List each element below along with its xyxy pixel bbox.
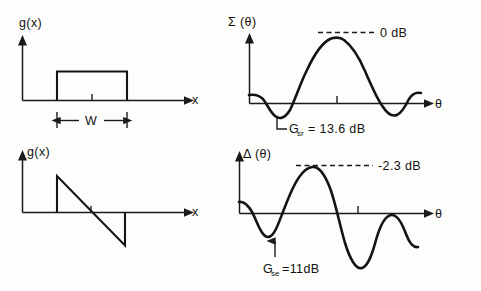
sum-pattern-curve (249, 38, 421, 118)
gsr-subscript: sr (297, 129, 304, 138)
gsr-value: = 13.6 dB (308, 122, 365, 136)
bottom-right-x-axis-label: θ (435, 207, 442, 221)
panel-bottom-right: Δ (θ) θ -2.3 dB G se =11dB (239, 147, 442, 278)
panel-top-right: Σ (θ) θ 0 dB G sr = 13.6 dB (228, 15, 442, 138)
figure-svg: g(x) x W g(x) x (0, 0, 481, 291)
top-left-y-axis-label: g(x) (19, 16, 42, 30)
gse-label: G se =11dB (263, 262, 320, 278)
width-dimension: W (57, 112, 127, 128)
minus-2p3-db-label: -2.3 dB (378, 159, 421, 173)
width-label: W (85, 114, 97, 128)
gsr-label: G sr = 13.6 dB (289, 122, 365, 138)
gse-subscript: se (271, 269, 280, 278)
panel-bottom-left: g(x) x (23, 145, 200, 246)
zero-db-label: 0 dB (380, 26, 407, 40)
panel-top-left: g(x) x W (19, 16, 199, 128)
top-left-x-axis-label: x (192, 93, 199, 107)
bottom-left-y-axis-label: g(x) (27, 145, 50, 159)
bottom-right-y-axis-label: Δ (θ) (243, 147, 271, 161)
gse-value: =11dB (282, 262, 320, 276)
figure-canvas: g(x) x W g(x) x (0, 0, 481, 291)
bottom-left-x-axis-label: x (192, 205, 199, 219)
difference-pattern-curve (239, 167, 418, 268)
top-right-y-axis-label: Σ (θ) (228, 15, 256, 29)
top-right-x-axis-label: θ (435, 97, 442, 111)
